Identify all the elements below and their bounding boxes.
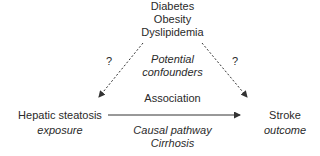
causal-pathway-label: Causal pathway (125, 124, 220, 137)
outcome-name: Stroke (260, 109, 310, 122)
question-mark-left: ? (104, 55, 114, 68)
outcome-role: outcome (260, 124, 310, 137)
confounder-obesity: Obesity (130, 13, 215, 26)
confounder-dyslipidemia: Dyslipidemia (130, 26, 215, 39)
association-label: Association (130, 92, 215, 105)
confounders-label: confounders (130, 66, 215, 79)
potential-label: Potential (130, 53, 215, 66)
causal-pathway-mediator: Cirrhosis (125, 137, 220, 150)
question-mark-right: ? (230, 55, 240, 68)
confounder-diabetes: Diabetes (130, 0, 215, 13)
exposure-name: Hepatic steatosis (15, 109, 105, 122)
exposure-role: exposure (15, 124, 105, 137)
